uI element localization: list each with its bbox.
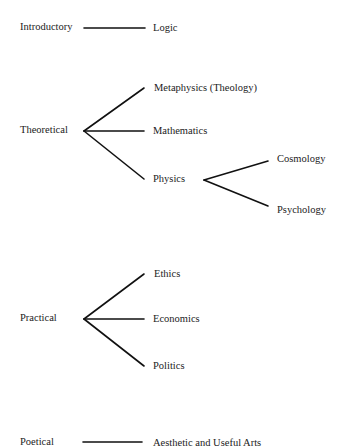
connector-theoretical-physics <box>84 131 144 179</box>
node-mathematics: Mathematics <box>153 125 207 137</box>
node-introductory: Introductory <box>20 21 73 33</box>
node-metaphysics: Metaphysics (Theology) <box>154 82 257 94</box>
connector-physics-cosmology <box>204 161 268 180</box>
node-economics: Economics <box>153 313 200 325</box>
node-practical: Practical <box>20 312 57 324</box>
connector-physics-psychology <box>204 180 268 206</box>
connector-lines <box>0 0 342 448</box>
node-cosmology: Cosmology <box>277 153 325 165</box>
node-ethics: Ethics <box>154 268 180 280</box>
connector-practical-ethics <box>84 274 144 319</box>
node-theoretical: Theoretical <box>20 124 68 136</box>
node-logic: Logic <box>153 22 178 34</box>
node-aesthetic-useful-arts: Aesthetic and Useful Arts <box>153 437 261 448</box>
connector-theoretical-metaphysics <box>84 88 144 131</box>
philosophy-tree-diagram: Introductory Logic Theoretical Metaphysi… <box>0 0 342 448</box>
node-poetical: Poetical <box>20 436 54 448</box>
node-physics: Physics <box>153 173 185 185</box>
node-politics: Politics <box>153 360 185 372</box>
node-psychology: Psychology <box>277 204 326 216</box>
connector-practical-politics <box>84 319 144 366</box>
